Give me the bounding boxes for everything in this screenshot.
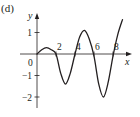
x-tick-label: 2 (57, 42, 62, 52)
tick-labels: 24681−1−20xy (22, 10, 130, 103)
y-axis-arrow-icon (35, 13, 39, 19)
origin-label: 0 (28, 58, 33, 68)
y-tick-label: −2 (22, 93, 32, 103)
y-tick-label: −1 (22, 71, 32, 81)
y-axis-label: y (27, 10, 33, 21)
x-axis-label: x (124, 56, 130, 67)
x-tick-label: 6 (95, 42, 100, 52)
data-curve (37, 20, 123, 97)
y-axis (35, 13, 39, 108)
axis-ticks (35, 33, 114, 98)
y-tick-label: 1 (27, 28, 32, 38)
line-chart: 24681−1−20xy (0, 0, 140, 117)
